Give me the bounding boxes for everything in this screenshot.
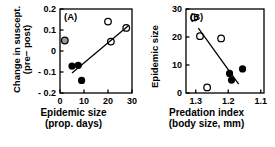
- figure-container: Change in suscept. (pre− post) - 0.2- 0.…: [0, 0, 275, 147]
- panel-b-x-axis-title-line1: Predation index: [169, 107, 244, 118]
- data-point-open-circle: [218, 35, 225, 42]
- panel-a: Change in suscept. (pre− post) - 0.2- 0.…: [0, 0, 137, 147]
- x-tick-label: 0: [57, 96, 62, 106]
- y-tick-label: 0.2: [43, 4, 56, 14]
- panel-a-x-axis-title: Epidemic size (prop. days): [10, 107, 137, 129]
- x-tick-label: 1.1: [254, 96, 267, 106]
- panel-a-x-axis-title-line1: Epidemic size: [40, 107, 106, 118]
- x-tick-label: 10: [79, 96, 89, 106]
- panel-b-x-axis-title: Predation index (body size, mm): [138, 107, 275, 129]
- y-tick-label: 0: [51, 46, 56, 56]
- data-point-filled-circle: [75, 62, 82, 69]
- panel-b: Epidemic size 01020301.31.21.1(B) Predat…: [138, 0, 275, 147]
- data-point-open-circle: [204, 84, 211, 91]
- x-tick-label: 20: [103, 96, 113, 106]
- data-point-open-circle: [197, 33, 204, 40]
- y-tick-label: - 0.1: [38, 67, 56, 77]
- data-point-filled-circle: [228, 77, 235, 84]
- panel-b-x-axis-title-line2: (body size, mm): [169, 118, 245, 129]
- data-point-filled-circle: [226, 70, 233, 77]
- panel-a-x-axis-title-line2: (prop. days): [45, 118, 102, 129]
- data-point-filled-circle: [239, 65, 246, 72]
- panel-b-plot: 01020301.31.21.1(B): [138, 0, 275, 115]
- panel-label: (B): [190, 11, 203, 22]
- data-point-open-circle: [105, 18, 112, 25]
- y-tick-label: 10: [172, 60, 182, 70]
- data-point-filled-circle: [68, 63, 75, 70]
- x-tick-label: 1.3: [189, 96, 202, 106]
- y-tick-label: 30: [172, 4, 182, 14]
- x-tick-label: 30: [127, 96, 137, 106]
- data-point-grey-circle: [62, 37, 69, 44]
- y-tick-label: 20: [172, 32, 182, 42]
- y-tick-label: 0: [177, 88, 182, 98]
- y-tick-label: 0.1: [43, 25, 56, 35]
- data-point-filled-circle: [78, 77, 85, 84]
- y-tick-label: - 0.2: [38, 88, 56, 98]
- panel-label: (A): [64, 11, 77, 22]
- panel-a-plot: - 0.2- 0.100.10.20102030(A): [0, 0, 137, 115]
- x-tick-label: 1.2: [222, 96, 235, 106]
